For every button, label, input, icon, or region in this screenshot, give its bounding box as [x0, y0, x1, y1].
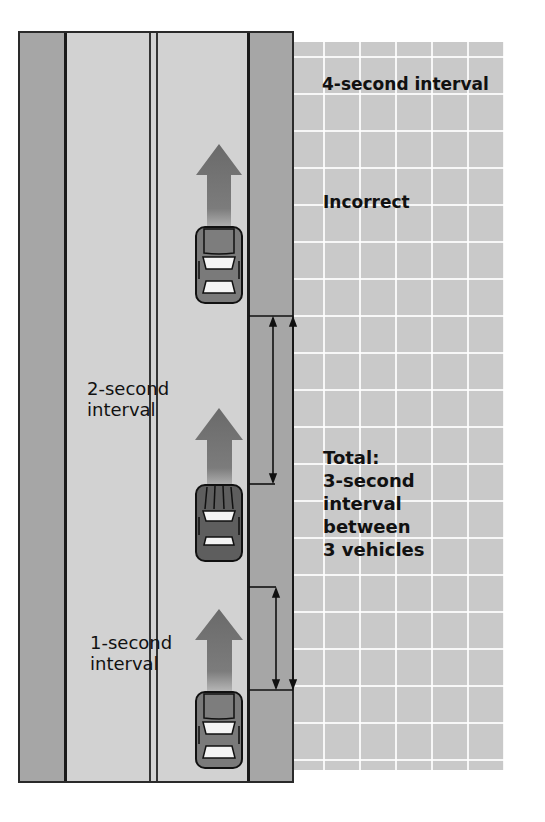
rear-car-icon: [196, 692, 242, 768]
two-second-bracket: [249, 316, 293, 484]
lead-arrow-icon: [196, 144, 242, 230]
rear-arrow-icon: [195, 609, 243, 692]
incorrect-label: Incorrect: [323, 192, 410, 213]
four-second-interval-label: 4-second interval: [322, 74, 489, 95]
one-second-interval-label: 1-second interval: [90, 632, 172, 674]
total-interval-label: Total: 3-second interval between 3 vehic…: [323, 446, 424, 561]
one-second-bracket: [249, 587, 293, 690]
middle-arrow-icon: [195, 408, 243, 488]
total-bracket: [290, 318, 296, 688]
two-second-interval-label: 2-second interval: [87, 378, 169, 420]
diagram-graphics: [0, 0, 545, 822]
lead-car-icon: [196, 227, 242, 303]
middle-car-icon: [196, 485, 242, 561]
